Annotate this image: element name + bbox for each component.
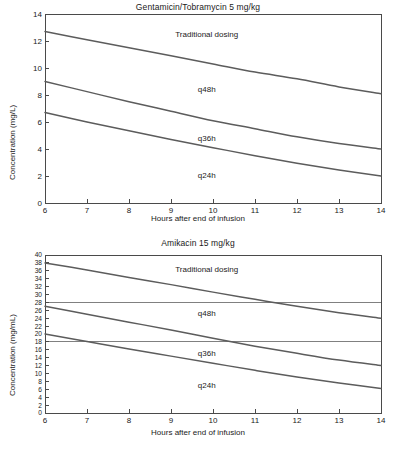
y-tick-label: 40 xyxy=(35,251,43,258)
x-tick-label: 13 xyxy=(335,416,344,425)
y-tick-label: 36 xyxy=(35,267,43,274)
y-tick-label: 4 xyxy=(38,145,43,154)
x-tick-label: 11 xyxy=(251,416,260,425)
chart-panel-amikacin: Amikacin 15 mg/kg Concentration (mg/mL) … xyxy=(0,226,396,451)
y-tick-label: 6 xyxy=(38,386,42,393)
y-tick-label: 10 xyxy=(35,370,43,377)
x-tick-label: 8 xyxy=(127,416,132,425)
y-tick-label: 24 xyxy=(35,315,43,322)
x-tick-label: 9 xyxy=(169,416,174,425)
series-annotation-label: Traditional dosing xyxy=(175,30,238,39)
y-tick-label: 2 xyxy=(38,172,43,181)
y-tick-label: 28 xyxy=(35,299,43,306)
plot-area-top: 0246810121467891011121314Traditional dos… xyxy=(0,0,396,226)
series-annotation-label: q24h xyxy=(198,171,216,180)
x-tick-label: 12 xyxy=(293,416,302,425)
y-tick-label: 30 xyxy=(35,291,43,298)
x-tick-label: 6 xyxy=(43,416,48,425)
series-annotation-label: Traditional dosing xyxy=(175,265,238,274)
y-tick-label: 12 xyxy=(33,37,42,46)
y-tick-label: 20 xyxy=(35,330,43,337)
y-tick-label: 12 xyxy=(35,362,43,369)
y-tick-label: 18 xyxy=(35,338,43,345)
y-tick-label: 32 xyxy=(35,283,43,290)
y-tick-label: 2 xyxy=(38,402,42,409)
series-curve xyxy=(45,113,381,176)
y-tick-label: 26 xyxy=(35,307,43,314)
y-tick-label: 6 xyxy=(38,118,43,127)
x-tick-label: 14 xyxy=(377,416,386,425)
y-tick-label: 10 xyxy=(33,64,42,73)
series-annotation-label: q36h xyxy=(198,134,216,143)
x-tick-label: 7 xyxy=(85,416,90,425)
series-annotation-label: q48h xyxy=(198,309,216,318)
y-tick-label: 0 xyxy=(38,409,42,416)
x-tick-label: 10 xyxy=(209,416,218,425)
series-annotation-label: q48h xyxy=(198,85,216,94)
chart-panel-gentamicin: Gentamicin/Tobramycin 5 mg/kg Concentrat… xyxy=(0,0,396,226)
x-axis-label-top: Hours after end of infusion xyxy=(0,214,396,223)
y-tick-label: 14 xyxy=(35,354,43,361)
y-tick-label: 22 xyxy=(35,323,43,330)
series-annotation-label: q36h xyxy=(198,349,216,358)
y-tick-label: 8 xyxy=(38,378,42,385)
y-tick-label: 4 xyxy=(38,394,42,401)
y-tick-label: 16 xyxy=(35,346,43,353)
y-tick-label: 34 xyxy=(35,275,43,282)
y-tick-label: 8 xyxy=(38,91,43,100)
y-tick-label: 14 xyxy=(33,10,42,19)
x-axis-label-bottom: Hours after end of infusion xyxy=(0,428,396,437)
y-tick-label: 38 xyxy=(35,259,43,266)
plot-area-bottom: 0246810121416182022242628303234363840678… xyxy=(0,226,396,451)
series-annotation-label: q24h xyxy=(198,381,216,390)
